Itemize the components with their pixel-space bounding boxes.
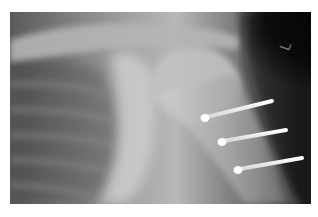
- xray-image: L: [10, 12, 311, 204]
- xray-svg: L: [10, 12, 311, 204]
